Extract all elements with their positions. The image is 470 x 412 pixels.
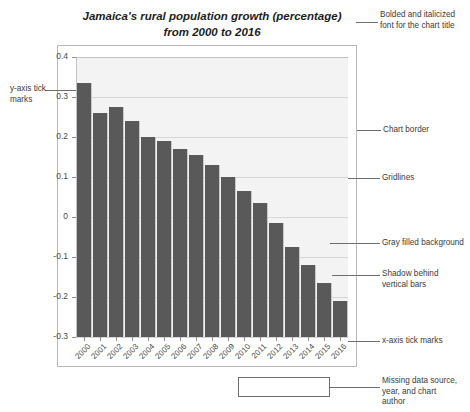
bar-rect: [189, 155, 202, 337]
annotation-x-tick-note: x-axis tick marks: [382, 336, 470, 347]
y-axis-tick-label: -0.2: [42, 292, 68, 301]
bar-rect: [301, 265, 314, 337]
y-axis-tick-label: 0: [42, 212, 68, 221]
bar-rect: [253, 203, 266, 337]
page-title: Jamaica's rural population growth (perce…: [62, 8, 362, 40]
leader-gridlines-note: [348, 178, 380, 179]
y-axis-tick-label: 0.4: [42, 52, 68, 61]
annotation-y-tick-note-line-2: marks: [10, 95, 32, 104]
x-axis-tick-mark: [100, 337, 101, 341]
y-axis-tick-mark: [72, 337, 76, 338]
y-axis-tick-mark: [72, 137, 76, 138]
x-axis-tick-mark: [148, 337, 149, 341]
y-axis-tick-mark: [72, 297, 76, 298]
y-axis-tick-mark: [72, 217, 76, 218]
leader-missing-source-note: [330, 387, 380, 388]
bar-rect: [333, 301, 346, 337]
x-axis-tick-mark: [260, 337, 261, 341]
y-axis-tick-mark: [72, 257, 76, 258]
bar-rect: [93, 113, 106, 337]
leader-chart-border-note: [357, 130, 381, 131]
y-axis-tick-label: 0.2: [42, 132, 68, 141]
x-axis-tick-mark: [228, 337, 229, 341]
x-axis-tick-mark: [244, 337, 245, 341]
bar-2010[interactable]: [237, 57, 250, 337]
plot-area: [76, 57, 348, 337]
bar-2002[interactable]: [109, 57, 122, 337]
bar-rect: [237, 191, 250, 337]
annotation-chart-border-note: Chart border: [383, 125, 469, 136]
bar-2014[interactable]: [301, 57, 314, 337]
bar-rect: [77, 83, 90, 337]
bar-2000[interactable]: [77, 57, 90, 337]
x-axis-tick-mark: [340, 337, 341, 341]
y-axis-tick-mark: [72, 97, 76, 98]
bars-group: [76, 57, 348, 337]
x-axis-tick-mark: [308, 337, 309, 341]
bar-2013[interactable]: [285, 57, 298, 337]
x-axis-tick-mark: [116, 337, 117, 341]
caption-placeholder-box[interactable]: [238, 377, 330, 397]
annotation-title-note: Bolded and italicized font for the chart…: [380, 10, 468, 31]
annotation-gridlines-note-line-1: Gridlines: [382, 173, 414, 182]
annotation-y-tick-note: y-axis tick marks: [10, 84, 52, 105]
leader-gray-background-note: [330, 243, 380, 244]
x-axis-tick-mark: [84, 337, 85, 341]
bar-rect: [141, 137, 154, 337]
bar-rect: [157, 141, 170, 337]
annotation-shadow-note: Shadow behind vertical bars: [382, 269, 466, 290]
leader-title-note: [356, 22, 378, 23]
annotation-title-note-line-2: font for the chart title: [380, 21, 455, 30]
bar-rect: [173, 149, 186, 337]
bar-2015[interactable]: [317, 57, 330, 337]
x-axis-tick-mark: [324, 337, 325, 341]
x-axis-tick-mark: [164, 337, 165, 341]
bar-2011[interactable]: [253, 57, 266, 337]
leader-x-tick-note: [348, 341, 380, 342]
x-axis-tick-mark: [212, 337, 213, 341]
x-axis-tick-mark: [292, 337, 293, 341]
chart-title-line-2: from 2000 to 2016: [62, 24, 362, 40]
bar-2001[interactable]: [93, 57, 106, 337]
annotation-y-tick-note-line-1: y-axis tick: [10, 84, 46, 93]
x-axis-tick-mark: [180, 337, 181, 341]
bar-rect: [269, 223, 282, 337]
annotation-gridlines-note: Gridlines: [382, 173, 468, 184]
annotation-gray-background-note-line-1: Gray filled background: [382, 238, 464, 247]
annotation-x-tick-note-line-1: x-axis tick marks: [382, 336, 443, 345]
bar-rect: [109, 107, 122, 337]
annotation-missing-source-note-line-2: year, and chart: [382, 387, 436, 396]
bar-2012[interactable]: [269, 57, 282, 337]
x-axis-tick-mark: [276, 337, 277, 341]
x-axis-tick-mark: [132, 337, 133, 341]
bar-rect: [285, 247, 298, 337]
annotation-missing-source-note-line-1: Missing data source,: [382, 376, 457, 385]
bar-2009[interactable]: [221, 57, 234, 337]
annotation-shadow-note-line-1: Shadow behind: [382, 269, 438, 278]
leader-shadow-note: [332, 275, 380, 276]
y-axis-tick-label: -0.3: [42, 332, 68, 341]
annotation-title-note-line-1: Bolded and italicized: [380, 10, 455, 19]
bar-2003[interactable]: [125, 57, 138, 337]
bar-2006[interactable]: [173, 57, 186, 337]
x-axis-tick-mark: [196, 337, 197, 341]
bar-2004[interactable]: [141, 57, 154, 337]
bar-rect: [125, 121, 138, 337]
bar-rect: [317, 283, 330, 337]
y-axis-tick-label: 0.1: [42, 172, 68, 181]
bar-2005[interactable]: [157, 57, 170, 337]
chart-title-line-1: Jamaica's rural population growth (perce…: [62, 8, 362, 24]
bar-rect: [221, 177, 234, 337]
bar-rect: [205, 165, 218, 337]
bar-2007[interactable]: [189, 57, 202, 337]
annotation-chart-border-note-line-1: Chart border: [383, 125, 429, 134]
bar-2016[interactable]: [333, 57, 346, 337]
bar-2008[interactable]: [205, 57, 218, 337]
y-axis-tick-label: -0.1: [42, 252, 68, 261]
annotation-missing-source-note-line-3: author: [382, 397, 405, 406]
annotation-shadow-note-line-2: vertical bars: [382, 280, 426, 289]
y-axis-tick-mark: [72, 57, 76, 58]
y-axis-tick-mark: [72, 177, 76, 178]
annotation-missing-source-note: Missing data source, year, and chart aut…: [382, 376, 470, 408]
annotation-gray-background-note: Gray filled background: [382, 238, 470, 249]
